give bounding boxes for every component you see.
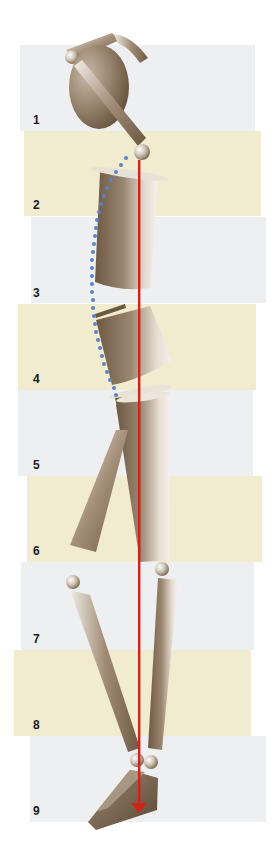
ankle-ball-right [144,755,158,769]
neck-ball [134,144,150,160]
band-label-3: 3 [33,286,40,300]
mannequin-figure [0,0,277,847]
band-label-6: 6 [33,544,40,558]
band-label-7: 7 [33,632,40,646]
head-group [65,33,150,160]
band-label-5: 5 [33,458,40,472]
torso-group [90,164,172,412]
knee-ball-left [66,575,80,589]
chest [95,172,158,289]
right-shin [148,578,178,750]
band-label-4: 4 [33,372,40,386]
knee-ball-right [155,562,169,576]
band-label-8: 8 [33,718,40,732]
ankle-ball-left [130,753,144,767]
front-thigh [70,430,128,552]
band-label-1: 1 [33,113,40,127]
left-shin [70,590,140,752]
plumb-line-shaft [138,160,140,805]
band-label-9: 9 [33,804,40,818]
legs-group [66,389,178,830]
band-label-2: 2 [33,198,40,212]
rear-thigh [116,395,170,562]
